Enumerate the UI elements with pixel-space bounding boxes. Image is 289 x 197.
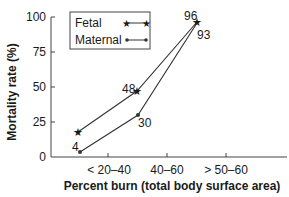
fetal-marker: ★ xyxy=(73,126,83,138)
y-tick-labels: 0 25 50 75 100 xyxy=(26,10,46,164)
x-tick-labels: < 20–40 40–60 > 50–60 xyxy=(87,163,248,177)
y-tick-25: 25 xyxy=(33,115,47,129)
x-tick-2: 40–60 xyxy=(150,163,184,177)
y-axis-label: Mortality rate (%) xyxy=(5,43,19,140)
y-tick-0: 0 xyxy=(39,150,46,164)
x-axis-label: Percent burn (total body surface area) xyxy=(64,179,281,193)
svg-text:★: ★ xyxy=(142,18,151,29)
y-tick-100: 100 xyxy=(26,10,46,24)
y-tick-50: 50 xyxy=(33,80,47,94)
mortality-chart: Mortality rate (%) 0 25 50 75 100 < 20–4… xyxy=(0,0,289,197)
svg-text:★: ★ xyxy=(122,18,131,29)
legend-maternal-label: Maternal xyxy=(75,33,122,47)
label-maternal-30: 30 xyxy=(138,116,152,130)
label-maternal-93: 93 xyxy=(197,28,211,42)
label-maternal-4: 4 xyxy=(72,140,79,154)
label-fetal-48: 48 xyxy=(122,82,136,96)
legend-fetal-label: Fetal xyxy=(75,16,102,30)
x-tick-3: > 50–60 xyxy=(204,163,248,177)
legend: Fetal Maternal ★ ★ xyxy=(70,12,151,49)
x-tick-1: < 20–40 xyxy=(87,163,131,177)
y-tick-75: 75 xyxy=(33,45,47,59)
label-fetal-96: 96 xyxy=(184,9,198,23)
